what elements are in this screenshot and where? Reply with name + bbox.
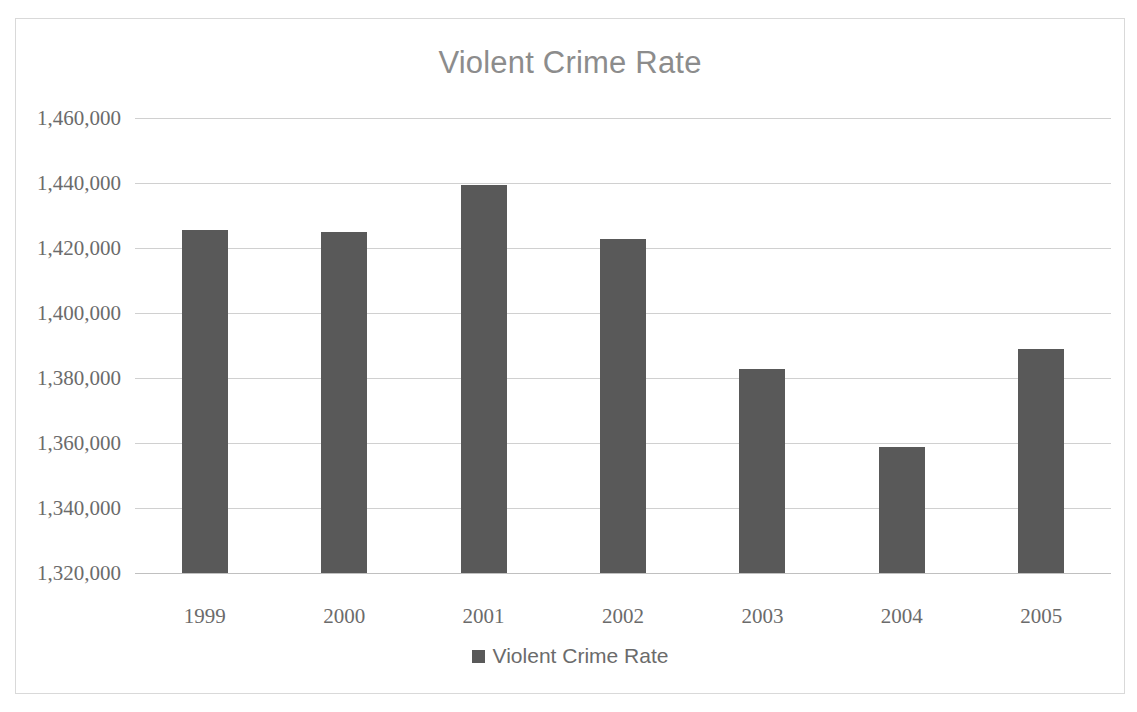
- x-axis-tick-label: 2000: [323, 604, 365, 629]
- x-axis-tick-label: 2001: [463, 604, 505, 629]
- y-axis-tick-label: 1,400,000: [37, 301, 121, 326]
- legend-label: Violent Crime Rate: [493, 644, 669, 668]
- bar-slot: [972, 118, 1111, 573]
- bar[interactable]: [1018, 349, 1064, 573]
- bar[interactable]: [879, 447, 925, 573]
- x-axis-tick-label: 1999: [184, 604, 226, 629]
- bar[interactable]: [182, 230, 228, 573]
- plot-area: 1,460,0001,440,0001,420,0001,400,0001,38…: [135, 118, 1111, 573]
- bar-slot: [135, 118, 274, 573]
- bar-slot: [832, 118, 971, 573]
- x-axis-tick-label: 2002: [602, 604, 644, 629]
- y-axis-tick-label: 1,420,000: [37, 236, 121, 261]
- gridline: [135, 573, 1111, 574]
- bar-slot: [553, 118, 692, 573]
- y-axis-tick-label: 1,460,000: [37, 106, 121, 131]
- x-axis-tick-label: 2004: [881, 604, 923, 629]
- y-axis-tick-label: 1,340,000: [37, 496, 121, 521]
- chart-legend: Violent Crime Rate: [16, 644, 1124, 668]
- bar-slot: [274, 118, 413, 573]
- y-axis-tick-label: 1,380,000: [37, 366, 121, 391]
- x-axis-tick-label: 2003: [741, 604, 783, 629]
- bar-slot: [414, 118, 553, 573]
- y-axis-tick-label: 1,360,000: [37, 431, 121, 456]
- bar[interactable]: [600, 239, 646, 573]
- bar[interactable]: [461, 185, 507, 573]
- y-axis-tick-label: 1,440,000: [37, 171, 121, 196]
- legend-swatch-icon: [472, 650, 485, 663]
- chart-title: Violent Crime Rate: [16, 45, 1124, 81]
- x-axis-labels: 1999200020012002200320042005: [135, 592, 1111, 632]
- chart-container: Violent Crime Rate 1,460,0001,440,0001,4…: [15, 18, 1125, 694]
- bar-slot: [693, 118, 832, 573]
- bar[interactable]: [321, 232, 367, 573]
- bar[interactable]: [739, 369, 785, 573]
- bar-series: [135, 118, 1111, 573]
- x-axis-tick-label: 2005: [1020, 604, 1062, 629]
- y-axis-tick-label: 1,320,000: [37, 561, 121, 586]
